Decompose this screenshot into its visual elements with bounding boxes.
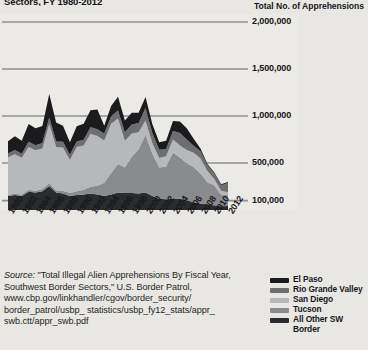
chart-legend: El PasoRio Grande ValleySan DiegoTucsonA… — [270, 275, 366, 335]
legend-swatch-icon — [270, 298, 289, 303]
legend-swatch-icon — [270, 318, 289, 323]
source-line-5: swb.ctt/appr_swb.pdf — [4, 316, 88, 326]
legend-swatch-icon — [270, 278, 289, 283]
y-axis-tick-label: 500,000 — [252, 157, 284, 167]
y-axis-title: Total No. of Apprehensions — [254, 1, 364, 11]
source-line-4: border_patrol/usbp_ statistics/usbp_fy12… — [4, 305, 215, 315]
y-axis-tick-label: 2,000,000 — [252, 16, 291, 26]
source-label: Source: — [4, 270, 35, 280]
y-axis-tick-label: 1,500,000 — [252, 63, 291, 73]
source-citation: Source: "Total Illegal Alien Apprehensio… — [4, 270, 256, 328]
source-line-1: "Total Illegal Alien Apprehensions By Fi… — [37, 270, 208, 280]
x-axis-tick-labels: 1980198219841986198819901992199419961998… — [0, 208, 300, 256]
legend-swatch-icon — [270, 288, 289, 293]
source-line-3: www.cbp.gov/linkhandler/cgov/border_secu… — [4, 293, 191, 303]
legend-swatch-icon — [270, 308, 289, 313]
y-axis-tick-label: 100,000 — [252, 195, 284, 205]
legend-item-label-continued: Border — [293, 325, 366, 335]
page-title: Sectors, FY 1980-2012 — [4, 0, 204, 6]
y-axis-tick-label: 1,000,000 — [252, 110, 291, 120]
chart-page: Sectors, FY 1980-2012 Total No. of Appre… — [0, 0, 368, 350]
